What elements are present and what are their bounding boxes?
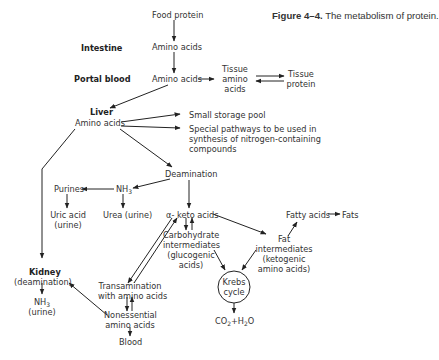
node-amino-acids-intestine: Amino acids: [152, 42, 202, 52]
node-kidney-nh3: NH3 (urine): [14, 297, 70, 317]
node-fat-intermediates: Fat intermediates (ketogenic amino acids…: [254, 234, 314, 274]
node-tissue-protein: Tissue protein: [284, 69, 318, 89]
node-purines: Purines: [54, 184, 84, 194]
node-urea: Urea (urine): [103, 210, 152, 220]
label-liver: Liver: [90, 107, 113, 117]
label-portal-blood: Portal blood: [74, 74, 131, 84]
node-uric-acid: Uric acid (urine): [48, 210, 88, 230]
node-nh3: NH3: [116, 184, 132, 194]
node-fats: Fats: [342, 210, 358, 220]
node-kidney-deamination: (deamination): [14, 277, 70, 287]
node-small-storage-pool: Small storage pool: [189, 110, 266, 120]
node-food-protein: Food protein: [152, 10, 203, 20]
label-intestine: Intestine: [81, 43, 122, 53]
node-amino-acids-portal: Amino acids: [152, 74, 202, 84]
node-transamination: Transamination with amino acids: [98, 281, 162, 301]
node-amino-acids-liver: Amino acids: [75, 118, 125, 128]
node-alpha-keto-acids: α- keto acids: [166, 210, 219, 220]
node-krebs-cycle: Krebs cycle: [214, 277, 254, 297]
node-co2-h2o: CO2+H2O: [215, 316, 254, 326]
node-deamination: Deamination: [165, 169, 218, 179]
node-nonessential-amino-acids: Nonessential amino acids: [104, 310, 156, 330]
node-tissue-amino-acids: Tissue amino acids: [214, 64, 256, 94]
node-fatty-acids: Fatty acids: [286, 210, 330, 220]
label-kidney: Kidney: [29, 267, 61, 277]
node-carbohydrate-intermediates: Carbohydrate intermediates (glucogenic a…: [163, 230, 219, 270]
node-special-pathways: Special pathways to be used in synthesis…: [189, 124, 321, 154]
node-blood: Blood: [119, 337, 142, 347]
